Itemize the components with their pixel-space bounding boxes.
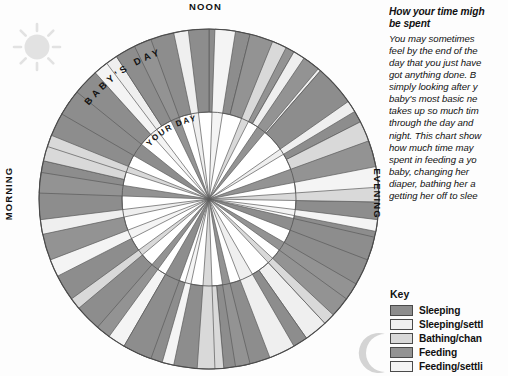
side-body-line: how much time may [389,142,508,154]
side-body-line: day that you just have [389,57,508,69]
key-item-label: Bathing/chan [419,333,482,344]
side-body-line: got anything done. B [389,69,508,81]
key-item: Feeding [389,345,508,359]
key-swatch [390,361,413,372]
side-body-line: feel by the end of the [389,45,508,57]
key-item-label: Feeding [419,347,457,358]
evening-label: EVENING [372,168,383,218]
side-body-line: simply looking after y [389,81,508,93]
key-item: Feeding/settli [389,359,508,373]
wedge-layer [39,29,379,369]
side-body-line: diaper, bathing her a [389,178,508,190]
key-swatch [390,319,413,330]
key-item: Bathing/chan [389,331,508,345]
key-legend: Key SleepingSleeping/settlBathing/chanFe… [389,288,508,373]
side-body-line: through the day and [389,117,508,129]
side-body-line: baby's most basic ne [389,93,508,105]
key-item-label: Sleeping [419,305,460,316]
key-swatch [390,333,413,344]
key-item: Sleeping [389,303,508,317]
side-panel: How your time migh be spent You may some… [389,0,508,376]
side-title-line2: be spent [389,18,508,30]
day-clock-chart: BABY'S DAY YOUR DAY NOON MORNING EVENIN [0,0,390,376]
key-item-label: Sleeping/settl [419,319,483,330]
sun-icon [8,18,66,76]
side-body-line: night. This chart show [389,130,508,142]
side-body-line: getting her off to slee [389,190,508,202]
key-swatch [390,305,413,316]
side-title-line1: How your time migh [389,6,485,17]
side-body-text: You may sometimesfeel by the end of thed… [389,33,508,202]
side-body-line: You may sometimes [389,33,508,45]
side-body-line: spent in feeding a yo [389,154,508,166]
key-list: SleepingSleeping/settlBathing/chanFeedin… [389,303,508,373]
morning-label: MORNING [3,167,14,221]
key-title: Key [390,288,508,300]
key-item-label: Feeding/settli [419,361,483,372]
side-body-line: takes up so much tim [389,105,508,117]
key-item: Sleeping/settl [389,317,508,331]
side-title: How your time migh be spent [389,6,508,31]
illustration-page: BABY'S DAY YOUR DAY NOON MORNING EVENIN [0,0,508,376]
noon-label: NOON [189,1,222,12]
side-body-line: baby, changing her [389,166,508,178]
key-swatch [390,347,413,358]
